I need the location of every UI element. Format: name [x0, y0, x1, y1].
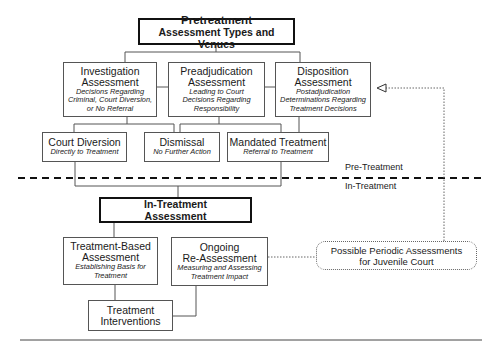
in-treatment-title-line1: In-Treatment — [144, 198, 207, 210]
preadjudication-title-line2: Assessment — [188, 77, 245, 88]
periodic-assessments-box: Possible Periodic Assessments for Juveni… — [316, 241, 477, 270]
ongoing-desc-line2: Treatment Impact — [191, 273, 248, 282]
treatment-interventions-box: Treatment Interventions — [88, 300, 173, 331]
investigation-assessment-box: Investigation Assessment Decisions Regar… — [63, 62, 157, 117]
periodic-line1: Possible Periodic Assessments — [331, 245, 462, 256]
investigation-title-line1: Investigation — [81, 66, 140, 77]
in-treatment-title-line2: Assessment — [145, 210, 207, 222]
court-diversion-box: Court Diversion Directly to Treatment — [42, 132, 127, 162]
pretreatment-title-line2: Assessment Types and Venues — [140, 26, 293, 50]
ongoing-reassessment-box: Ongoing Re-Assessment Measuring and Asse… — [171, 237, 268, 286]
treatment-based-desc-line2: Treatment — [94, 272, 127, 281]
treatment-based-assessment-box: Treatment-Based Assessment Establishing … — [63, 237, 158, 285]
periodic-line2: for Juvenile Court — [359, 256, 433, 267]
in-treatment-label: In-Treatment — [345, 181, 396, 191]
dismissal-box: Dismissal No Further Action — [144, 132, 220, 162]
preadjudication-title-line1: Preadjudication — [180, 66, 252, 77]
mandated-treatment-box: Mandated Treatment Referral to Treatment — [227, 132, 329, 162]
interventions-title-line1: Treatment — [107, 305, 154, 316]
preadjudication-desc-line3: Responsibility — [194, 105, 240, 114]
dismissal-desc: No Further Action — [153, 148, 211, 157]
disposition-assessment-box: Disposition Assessment Postadjudication … — [275, 62, 371, 117]
investigation-desc-line3: or No Referral — [87, 105, 133, 114]
arrowhead-icon — [377, 84, 386, 92]
interventions-title-line2: Interventions — [100, 316, 160, 327]
preadjudication-assessment-box: Preadjudication Assessment Leading to Co… — [168, 62, 265, 117]
connector-lines — [0, 0, 500, 352]
pretreatment-box: Pretreatment Assessment Types and Venues — [138, 18, 295, 45]
pretreatment-title-line1: Pretreatment — [181, 14, 252, 26]
in-treatment-assessment-box: In-Treatment Assessment — [99, 197, 252, 223]
court-diversion-desc: Directly to Treatment — [50, 148, 118, 157]
disposition-title-line2: Assessment — [294, 77, 351, 88]
pre-treatment-label: Pre-Treatment — [345, 162, 403, 172]
mandated-treatment-desc: Referral to Treatment — [243, 148, 313, 157]
investigation-title-line2: Assessment — [81, 77, 138, 88]
disposition-title-line1: Disposition — [297, 66, 348, 77]
disposition-desc-line3: Treatment Decisions — [289, 105, 356, 114]
